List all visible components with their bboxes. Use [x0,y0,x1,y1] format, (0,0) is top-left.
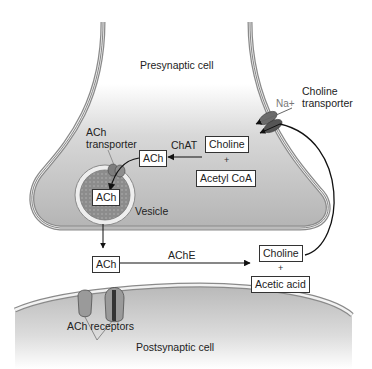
ach-transporter-label-line1: ACh [86,126,137,138]
postsynaptic-cell-label: Postsynaptic cell [136,341,214,353]
acetic-acid-box: Acetic acid [251,276,310,293]
ach-transporter-label-line2: transporter [86,138,137,150]
ach-transporter-label: ACh transporter [86,126,137,150]
plus-sign-presynaptic: + [224,155,229,165]
ach-box-cleft: ACh [92,256,120,273]
ach-receptors-label: ACh receptors [67,320,134,332]
ach-receptor-channel [105,288,124,322]
ach-receptor-small [78,290,92,317]
acetyl-coa-box: Acetyl CoA [196,170,256,187]
choline-transporter-label-line1: Choline [302,85,353,97]
choline-transporter-label: Choline transporter [302,85,353,109]
ach-box-vesicle: ACh [92,189,120,206]
ache-enzyme-label: AChE [168,249,195,261]
sodium-ion-label: Na+ [276,98,295,110]
presynaptic-cell-label: Presynaptic cell [140,59,214,71]
synapse-diagram [0,0,372,369]
choline-transporter-label-line2: transporter [302,97,353,109]
postsynaptic-cell [15,285,352,369]
chat-enzyme-label: ChAT [171,139,197,151]
choline-box-cleft: Choline [259,245,303,262]
vesicle-label: Vesicle [135,205,168,217]
ach-box-cytosol: ACh [139,150,167,167]
plus-sign-cleft: + [278,263,283,273]
choline-box-presynaptic: Choline [205,136,249,153]
